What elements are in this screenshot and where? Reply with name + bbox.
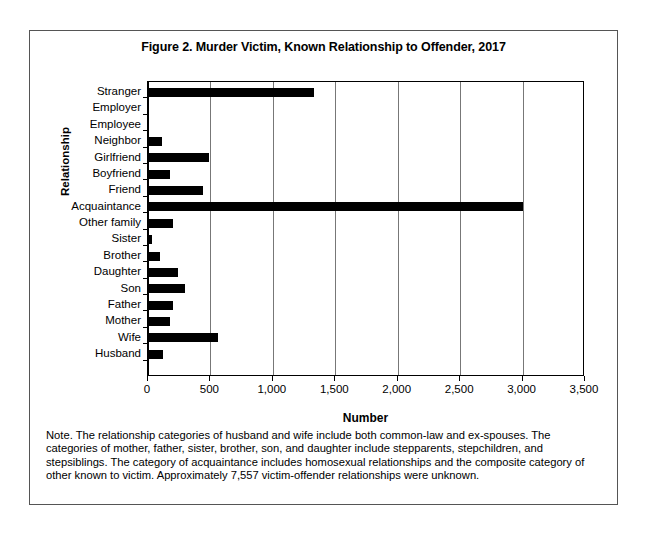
bar-father — [148, 301, 173, 310]
y-tick-mark — [143, 245, 147, 246]
y-tick-mark — [143, 147, 147, 148]
plot-wrapper: StrangerEmployerEmployeeNeighborGirlfrie… — [147, 81, 584, 376]
x-tick-label-3000: 3,000 — [507, 383, 536, 395]
x-tick-label-1000: 1,000 — [257, 383, 286, 395]
x-tick-mark-2500 — [459, 376, 460, 381]
y-tick-mark — [143, 327, 147, 328]
y-tick-mark — [143, 179, 147, 180]
category-label-daughter: Daughter — [94, 263, 141, 279]
x-tick-mark-0 — [147, 376, 148, 381]
category-label-mother: Mother — [105, 312, 141, 328]
bar-row — [148, 182, 583, 198]
bar-row — [148, 346, 583, 362]
category-label-father: Father — [108, 296, 141, 312]
bar-boyfriend — [148, 170, 170, 179]
category-label-sister: Sister — [112, 230, 141, 246]
category-label-wife: Wife — [118, 329, 141, 345]
x-tick-mark-3500 — [584, 376, 585, 381]
bar-mother — [148, 317, 170, 326]
category-label-brother: Brother — [103, 247, 141, 263]
bar-employer — [148, 104, 149, 113]
x-tick-label-3500: 3,500 — [570, 383, 599, 395]
x-tick-label-500: 500 — [200, 383, 219, 395]
bar-other-family — [148, 219, 173, 228]
bar-acquaintance — [148, 202, 523, 211]
figure-note: Note. The relationship categories of hus… — [46, 429, 602, 482]
bar-row — [148, 215, 583, 231]
category-label-acquaintance: Acquaintance — [71, 198, 141, 214]
y-tick-mark — [143, 360, 147, 361]
y-tick-mark — [143, 294, 147, 295]
bar-row — [148, 313, 583, 329]
bar-row — [148, 117, 583, 133]
y-tick-mark — [143, 343, 147, 344]
bar-sister — [148, 235, 152, 244]
bar-row — [148, 297, 583, 313]
category-label-employee: Employee — [90, 116, 141, 132]
bar-row — [148, 330, 583, 346]
category-label-other-family: Other family — [79, 214, 141, 230]
y-axis-title: Relationship — [59, 127, 71, 196]
bar-row — [148, 100, 583, 116]
bar-daughter — [148, 268, 178, 277]
figure-title: Figure 2. Murder Victim, Known Relations… — [30, 40, 617, 54]
x-tick-label-1500: 1,500 — [320, 383, 349, 395]
category-label-boyfriend: Boyfriend — [92, 165, 141, 181]
y-tick-mark — [143, 163, 147, 164]
bar-row — [148, 133, 583, 149]
bar-stranger — [148, 88, 314, 97]
x-tick-label-2500: 2,500 — [445, 383, 474, 395]
y-tick-mark — [143, 130, 147, 131]
bar-husband — [148, 350, 163, 359]
x-tick-label-2000: 2,000 — [382, 383, 411, 395]
category-label-son: Son — [121, 280, 141, 296]
bar-son — [148, 284, 185, 293]
x-tick-mark-2000 — [397, 376, 398, 381]
y-tick-mark — [143, 97, 147, 98]
bar-row — [148, 84, 583, 100]
bar-wife — [148, 333, 218, 342]
x-tick-mark-500 — [209, 376, 210, 381]
bar-row — [148, 166, 583, 182]
bar-employee — [148, 120, 149, 129]
x-axis-title: Number — [147, 411, 584, 425]
bar-row — [148, 248, 583, 264]
category-label-friend: Friend — [108, 181, 141, 197]
y-tick-mark — [143, 261, 147, 262]
y-tick-mark — [143, 229, 147, 230]
bar-friend — [148, 186, 203, 195]
bar-row — [148, 231, 583, 247]
y-tick-mark — [143, 310, 147, 311]
bar-row — [148, 264, 583, 280]
x-tick-label-0: 0 — [144, 383, 150, 395]
figure-frame: Figure 2. Murder Victim, Known Relations… — [29, 30, 618, 505]
y-tick-mark — [143, 114, 147, 115]
y-tick-mark — [143, 278, 147, 279]
category-label-employer: Employer — [92, 99, 141, 115]
category-label-neighbor: Neighbor — [94, 132, 141, 148]
bar-brother — [148, 252, 160, 261]
x-tick-mark-1000 — [272, 376, 273, 381]
category-label-stranger: Stranger — [97, 83, 141, 99]
bar-row — [148, 150, 583, 166]
category-label-girlfriend: Girlfriend — [94, 149, 141, 165]
bar-row — [148, 199, 583, 215]
bar-girlfriend — [148, 153, 209, 162]
bar-row — [148, 281, 583, 297]
plot-area — [147, 81, 584, 376]
x-tick-mark-1500 — [334, 376, 335, 381]
bar-neighbor — [148, 137, 162, 146]
x-tick-mark-3000 — [522, 376, 523, 381]
category-label-husband: Husband — [95, 345, 141, 361]
y-tick-mark — [143, 212, 147, 213]
y-tick-mark — [143, 196, 147, 197]
